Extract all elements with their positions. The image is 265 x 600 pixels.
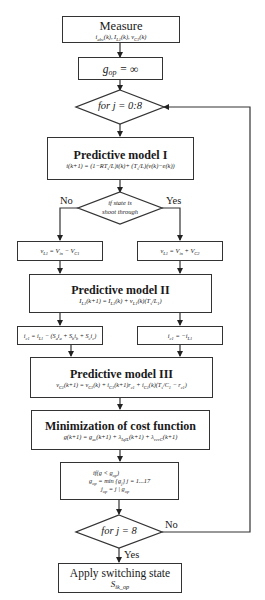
predictive-model-1-title: Predictive model I [74,148,168,162]
predictive-model-2-box: Predictive model II IL1(k+1) = IL1(k) + … [29,274,212,313]
shoot-through-label: if state is shoot through [80,198,160,216]
selection-box: if(g < gop) gop = min {gj} j = 1...17 jo… [60,462,179,500]
apply-switching-title: Apply switching state [70,567,170,579]
measure-equation: iabc(k), IL1(k), vC1(k) [96,33,147,41]
init-equation: gop = ∞ [103,62,139,76]
loop-end-no-label: No [165,519,178,531]
predictive-model-3-title: Predictive model III [70,367,173,381]
predictive-model-1-box: Predictive model I i(k+1) = (1−RTs/L)i(k… [47,137,194,180]
ic-yes-equation: ic1 = −iL1 [168,332,192,340]
predictive-model-2-title: Predictive model II [71,283,169,297]
apply-switching-equation: Sik_op [111,579,130,589]
shoot-through-yes-label: Yes [166,195,181,207]
cost-function-box: Minimization of cost function g(k+1) = g… [31,410,210,450]
selection-line-1: if(g < gop) [93,469,119,477]
selection-line-3: jop = j | gop [101,485,129,493]
predictive-model-3-equation: vC1(k+1) = vC1(k) + iC1(k+1)rc1 + iC1(k)… [56,381,187,389]
loop-start-label: for j = 0:8 [76,100,164,111]
cost-function-title: Minimization of cost function [45,419,196,433]
predictive-model-2-equation: IL1(k+1) = IL1(k) + vL1(k)(Ts/L1) [79,297,161,305]
vl-no-box: vL1 = Vin − VC1 [17,241,103,261]
measure-box: Measure iabc(k), IL1(k), vC1(k) [62,16,180,43]
cost-function-equation: g(k+1) = gac(k+1) + λIqIL(k+1) + λvcvC(k… [64,433,178,441]
selection-line-2: gop = min {gj} j = 1...17 [89,477,150,485]
predictive-model-1-equation: i(k+1) = (1−RTs/L)i(k)+ (Ts/L)(v(k)−e(k)… [66,162,174,170]
vl-yes-box: vL1 = Vin + VC2 [137,241,223,261]
ic-yes-box: ic1 = −iL1 [137,326,223,345]
init-box: gop = ∞ [78,57,163,80]
ic-no-equation: ic1 = iL1 − (Saia + Sbib + Scic) [24,332,96,340]
predictive-model-3-box: Predictive model III vC1(k+1) = vC1(k) +… [30,357,213,398]
loop-end-label: for j = 8 [76,525,162,536]
ic-no-box: ic1 = iL1 − (Saia + Sbib + Scic) [17,326,103,345]
vl-yes-equation: vL1 = Vin + VC2 [160,247,199,255]
measure-title: Measure [99,19,142,33]
vl-no-equation: vL1 = Vin − VC1 [40,247,79,255]
loop-end-yes-label: Yes [124,549,139,561]
apply-switching-box: Apply switching state Sik_op [58,563,182,593]
shoot-through-no-label: No [60,195,73,207]
